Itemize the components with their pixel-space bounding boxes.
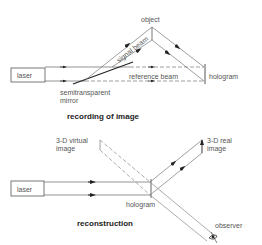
virtual-image-label-line2: image xyxy=(56,145,75,153)
reconstruction-caption: reconstruction xyxy=(77,219,133,228)
recording-panel: laser object signal beam reference beam … xyxy=(11,16,238,121)
hologram-label-top: hologram xyxy=(209,73,238,81)
reference-beam-label: reference beam xyxy=(129,73,178,80)
recording-caption: recording of image xyxy=(67,112,140,121)
hologram-label-bottom: hologram xyxy=(126,201,155,209)
virtual-image-label-line1: 3-D virtual xyxy=(56,137,88,144)
real-image-label-line1: 3-D real xyxy=(207,137,232,144)
real-image-label-line2: image xyxy=(207,145,226,153)
reconstruction-panel: laser 3-D virtual image 3-D real image h… xyxy=(11,137,243,243)
object-label: object xyxy=(141,16,160,24)
holography-diagram: laser object signal beam reference beam … xyxy=(0,0,262,245)
laser-label-bottom: laser xyxy=(17,186,33,193)
laser-label-top: laser xyxy=(17,72,33,79)
signal-beam-label: signal beam xyxy=(115,35,150,65)
mirror-label-line1: semitransparent xyxy=(60,89,110,97)
observer-label: observer xyxy=(215,222,243,229)
observer-eye-icon xyxy=(209,232,217,243)
mirror-label-line2: mirror xyxy=(60,97,79,104)
